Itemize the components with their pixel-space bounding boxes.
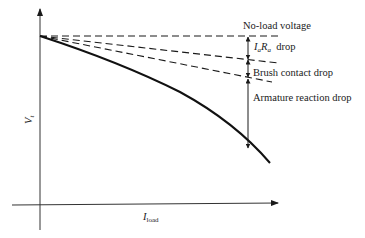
armature-reaction-drop-label: Armature reaction drop <box>253 93 352 104</box>
voltage-drop-diagram: No-load voltage IaRa drop Brush contact … <box>0 0 365 238</box>
terminal-voltage-curve <box>40 36 270 163</box>
x-axis-subscript: load <box>147 216 159 224</box>
ia-ra-drop-line <box>40 36 278 63</box>
brush-drop-line <box>40 36 272 82</box>
drop-word: drop <box>276 41 295 52</box>
x-axis <box>12 203 278 205</box>
y-axis-symbol: V <box>23 118 34 124</box>
ia-ra-drop-label: IaRa drop <box>254 42 295 54</box>
y-axis-subscript: t <box>28 116 36 118</box>
no-load-voltage-label: No-load voltage <box>243 21 311 32</box>
brush-contact-drop-label: Brush contact drop <box>253 68 333 79</box>
ra-subscript: a <box>267 46 271 54</box>
y-axis-label: Vt <box>24 116 36 124</box>
x-axis-label: Iload <box>143 212 159 224</box>
diagram-graphics <box>0 0 365 238</box>
